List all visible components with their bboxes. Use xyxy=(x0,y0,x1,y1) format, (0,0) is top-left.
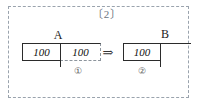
bar-cell-b1: 100 xyxy=(123,43,161,61)
divider-tick-a xyxy=(60,43,61,67)
group-label-a: A xyxy=(48,29,68,41)
step-marker-1: ① xyxy=(71,65,84,78)
bar-cell-a2: 100 xyxy=(60,43,101,61)
bar-cell-a1: 100 xyxy=(22,43,61,61)
step-marker-2: ② xyxy=(135,65,148,78)
divider-tick-b xyxy=(160,43,161,67)
group-label-b: B xyxy=(155,28,175,40)
transform-arrow-icon: ⇒ xyxy=(97,44,119,62)
figure-panel: 〔2〕 A 100 100 ① ⇒ B 100 ② xyxy=(8,6,189,98)
panel-caption: 〔2〕 xyxy=(87,7,127,21)
